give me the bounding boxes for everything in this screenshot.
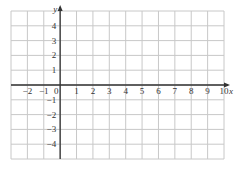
x-tick-label: 5 bbox=[140, 86, 145, 96]
x-tick-label: 9 bbox=[205, 86, 210, 96]
x-tick-label: 7 bbox=[173, 86, 178, 96]
y-tick-label: 3 bbox=[52, 36, 57, 46]
x-tick-label: 8 bbox=[189, 86, 194, 96]
x-tick-label: 1 bbox=[74, 86, 79, 96]
x-tick-label: 6 bbox=[156, 86, 161, 96]
coordinate-grid: −2−10123456789104321−1−2−3−4xy bbox=[0, 0, 241, 171]
y-axis-label: y bbox=[52, 4, 57, 14]
y-tick-label: 4 bbox=[52, 21, 57, 31]
x-axis-label: x bbox=[228, 86, 233, 96]
y-tick-label: −4 bbox=[47, 139, 57, 149]
y-tick-label: −2 bbox=[47, 110, 57, 120]
y-tick-label: −3 bbox=[47, 124, 57, 134]
x-tick-label: 4 bbox=[123, 86, 128, 96]
x-tick-label: 10 bbox=[220, 86, 230, 96]
x-tick-label: 2 bbox=[91, 86, 96, 96]
y-tick-label: −1 bbox=[47, 95, 57, 105]
y-tick-label: 1 bbox=[52, 65, 57, 75]
y-axis-arrow-icon bbox=[58, 5, 63, 11]
x-tick-label: −2 bbox=[23, 86, 33, 96]
y-tick-label: 2 bbox=[52, 50, 57, 60]
x-tick-label: 3 bbox=[107, 86, 112, 96]
